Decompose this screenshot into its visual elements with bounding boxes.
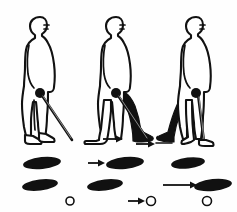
panel-1-cane-tip-marker [66, 197, 74, 205]
cane-gait-diagram: Walking with a cane — three-step gait se… [0, 0, 237, 212]
panel-3-cane-foot [199, 140, 214, 146]
panel-1-leg-separation [34, 100, 35, 130]
diagram-canvas [0, 0, 237, 212]
panel-3-cane-tip-marker [203, 197, 212, 206]
panel-2-cane-tip-marker [147, 197, 156, 206]
